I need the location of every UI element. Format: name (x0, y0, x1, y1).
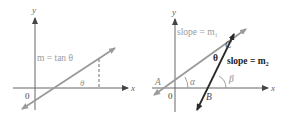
right-y-label: y (171, 7, 176, 17)
theta-angle-label: θ (213, 53, 218, 63)
left-panel: y x 0 m = tan θ θ (13, 5, 135, 110)
left-slope-equation-label: m = tan θ (37, 53, 73, 63)
point-b-label: B (206, 92, 212, 102)
point-a-label: A (154, 77, 161, 87)
point-c-label: C (225, 40, 232, 50)
left-theta-label: θ (80, 78, 85, 88)
slope-angle-diagram: y x 0 m = tan θ θ y x 0 slope = m₁ slope… (0, 0, 283, 120)
slope-m1-label: slope = m₁ (177, 27, 218, 37)
left-y-label: y (31, 5, 36, 15)
right-origin-label: 0 (168, 91, 173, 101)
left-x-label: x (130, 83, 135, 93)
slope-m2-label: slope = m₂ (227, 56, 269, 66)
left-origin-label: 0 (25, 91, 30, 101)
right-x-label: x (270, 83, 275, 93)
beta-arc (219, 76, 226, 88)
right-panel: y x 0 slope = m₁ slope = m₂ A B C θ α β (152, 7, 275, 112)
alpha-angle-label: α (190, 77, 196, 87)
beta-angle-label: β (228, 74, 234, 84)
alpha-arc (185, 77, 188, 88)
